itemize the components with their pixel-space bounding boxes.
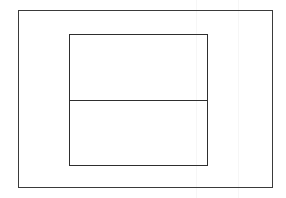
- diagram-canvas: [0, 0, 286, 198]
- bottom-panel: [70, 101, 207, 166]
- inner-frame: [69, 34, 208, 166]
- top-panel: [70, 35, 207, 101]
